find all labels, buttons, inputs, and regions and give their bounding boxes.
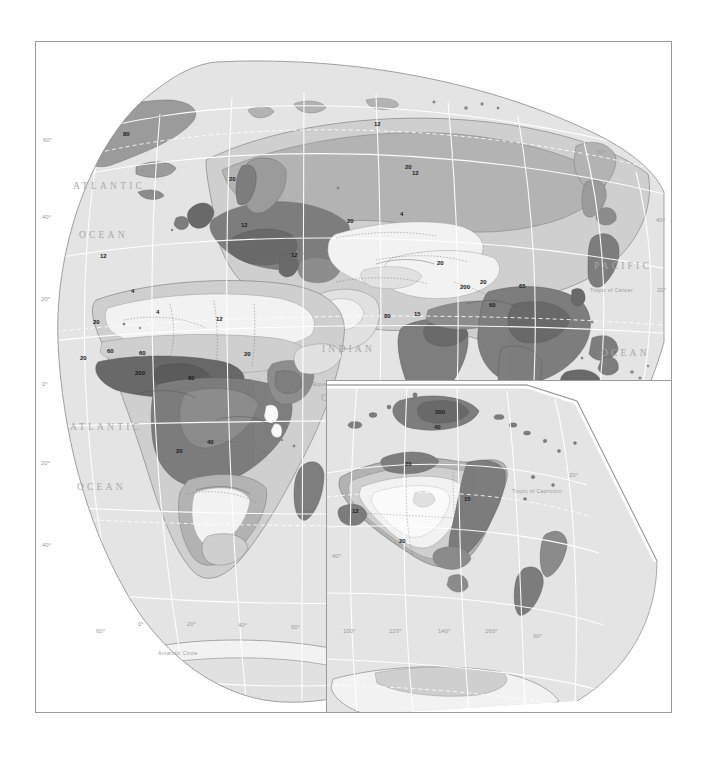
contour-label: 20 — [399, 538, 406, 544]
ocean-label: OCEAN — [77, 482, 126, 492]
ocean-label: ATLANTIC — [73, 181, 145, 191]
contour-label: 12 — [412, 170, 419, 176]
ocean-label: INDIAN — [322, 344, 375, 354]
contour-label: 12 — [352, 508, 359, 514]
latitude-label: 40° — [42, 542, 52, 548]
contour-label: 60 — [139, 350, 146, 356]
contour-label: 20 — [176, 448, 183, 454]
latitude-label: 0° — [42, 381, 48, 387]
map-page: ATLANTIC OCEAN ATLANTIC OCEAN INDIAN OCE… — [0, 0, 702, 775]
latitude-label: 40° — [332, 553, 342, 559]
latitude-label: 40° — [656, 217, 666, 223]
contour-label: 65 — [519, 283, 526, 289]
latitude-labels-left-group: 60° 40° 20° 0° 20° 40° — [41, 137, 53, 548]
latitude-label: 20° — [41, 296, 51, 302]
ocean-label: OCEAN — [601, 348, 650, 358]
latitude-label: 40° — [42, 214, 52, 220]
contour-label: 80 — [188, 375, 195, 381]
contour-label: 80 — [384, 313, 391, 319]
longitude-label: 0° — [138, 621, 144, 627]
longitude-label: 60° — [291, 624, 301, 630]
contour-label: 12 — [100, 253, 107, 259]
ocean-label: ATLANTIC — [70, 422, 142, 432]
latitude-label: 20° — [569, 472, 579, 478]
tropic-of-capricorn-label: Tropic of Capricorn — [512, 488, 562, 494]
inset-map-canvas: Tropic of Capricorn 20° 40° 60° 100° 120… — [327, 381, 671, 712]
contour-label: 80 — [123, 131, 130, 137]
contour-label: 15 — [414, 311, 421, 317]
tropic-of-cancer-label: Tropic of Cancer — [590, 287, 633, 293]
inset-ocean — [327, 381, 672, 713]
contour-label: 12 — [216, 316, 223, 322]
contour-label: 40 — [434, 424, 441, 430]
contour-label: 20 — [437, 260, 444, 266]
contour-label: 20 — [480, 279, 487, 285]
longitude-label: 160° — [485, 628, 498, 634]
inset-map-panel: Tropic of Capricorn 20° 40° 60° 100° 120… — [326, 380, 672, 713]
contour-label: 20 — [347, 218, 354, 224]
contour-label: 20 — [244, 351, 251, 357]
contour-label: 12 — [291, 252, 298, 258]
contour-label: 15 — [464, 496, 471, 502]
latitude-label: 60° — [597, 149, 607, 155]
contour-label: 200 — [460, 284, 471, 290]
latitude-label: 20° — [657, 287, 667, 293]
longitude-label: 60° — [96, 628, 106, 634]
contour-label: 12 — [374, 121, 381, 127]
longitude-label: 20° — [187, 621, 197, 627]
contour-label: 60 — [489, 302, 496, 308]
arctic-circle-label: Arctic Circle — [131, 113, 163, 119]
contour-label: 20 — [93, 319, 100, 325]
ocean-label: OCEAN — [79, 230, 128, 240]
contour-label: 12 — [241, 222, 248, 228]
antarctic-circle-label: Antarctic Circle — [158, 650, 198, 656]
longitude-label: 120° — [389, 628, 402, 634]
contour-label: 20 — [405, 164, 412, 170]
contour-label: 60 — [107, 348, 114, 354]
contour-label: 40 — [207, 439, 214, 445]
contour-label: 20 — [229, 176, 236, 182]
latitude-label: 60° — [43, 137, 53, 143]
contour-label: 200 — [435, 409, 446, 415]
contour-label: 20 — [405, 461, 412, 467]
latitude-label: 20° — [41, 460, 51, 466]
contour-label: 200 — [135, 370, 146, 376]
contour-label: 20 — [80, 355, 87, 361]
longitude-label: 100° — [343, 628, 356, 634]
ocean-label: PACIFIC — [594, 261, 652, 271]
longitude-label: 40° — [238, 622, 248, 628]
longitude-label: 140° — [438, 628, 451, 634]
latitude-label: 60° — [533, 633, 543, 639]
